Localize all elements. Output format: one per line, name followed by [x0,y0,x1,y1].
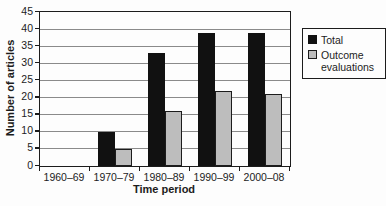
x-tick-label-0: 1960–69 [39,171,89,183]
legend-label-total: Total [321,34,343,46]
bar-outcome-4 [265,94,282,166]
y-tick-mark-10 [35,130,39,132]
x-tick-label-1: 1970–79 [89,171,139,183]
gridline-40 [40,29,290,30]
x-tick-mark-0 [39,167,41,171]
x-tick-mark-4 [239,167,241,171]
y-tick-label-20: 20 [0,91,33,102]
y-tick-mark-45 [35,11,39,13]
y-axis-title: Number of articles [4,40,16,137]
legend: Total Outcome evaluations [302,28,386,79]
bar-total-3 [198,33,215,166]
y-tick-label-40: 40 [0,23,33,34]
bar-outcome-1 [115,149,132,166]
legend-item-total: Total [308,34,382,46]
y-tick-mark-35 [35,45,39,47]
legend-label-outcome-evaluations: Outcome evaluations [321,49,382,73]
x-tick-mark-1 [89,167,91,171]
y-tick-label-30: 30 [0,57,33,68]
x-tick-mark-2 [139,167,141,171]
x-tick-label-2: 1980–89 [139,171,189,183]
legend-swatch-total [308,35,317,44]
bar-outcome-2 [165,111,182,166]
y-tick-label-35: 35 [0,40,33,51]
x-tick-label-4: 2000–08 [239,171,289,183]
bar-total-1 [98,132,115,166]
legend-item-outcome-evaluations: Outcome evaluations [308,49,382,73]
legend-swatch-outcome-evaluations [308,50,317,59]
y-tick-label-0: 0 [0,160,33,171]
x-tick-label-3: 1990–99 [189,171,239,183]
y-tick-mark-5 [35,147,39,149]
y-tick-label-15: 15 [0,108,33,119]
y-tick-mark-20 [35,96,39,98]
y-tick-mark-15 [35,113,39,115]
y-tick-mark-25 [35,79,39,81]
bar-outcome-3 [215,91,232,166]
plot-area [39,11,291,167]
bar-chart-figure: Number of articles 051015202530354045196… [0,0,386,206]
bar-total-2 [148,53,165,166]
bar-total-4 [248,33,265,166]
y-tick-label-25: 25 [0,74,33,85]
y-tick-label-10: 10 [0,125,33,136]
y-tick-label-45: 45 [0,6,33,17]
x-tick-mark-3 [189,167,191,171]
y-tick-label-5: 5 [0,142,33,153]
y-tick-mark-30 [35,62,39,64]
y-tick-mark-40 [35,28,39,30]
x-axis-title: Time period [39,183,289,195]
x-tick-mark-5 [289,167,291,171]
